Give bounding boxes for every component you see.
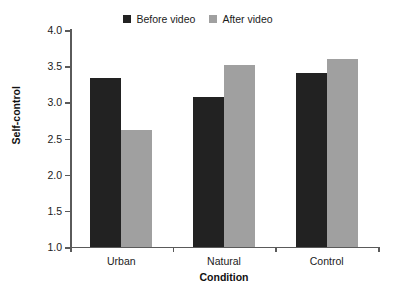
bar	[90, 78, 121, 247]
bar	[296, 73, 327, 247]
x-tick-label: Control	[272, 256, 382, 267]
y-tick-label: 1.0	[0, 242, 62, 253]
bar	[224, 65, 255, 247]
legend-swatch-icon	[209, 15, 217, 23]
legend-swatch-icon	[123, 15, 131, 23]
y-tick-label: 4.0	[0, 25, 62, 36]
x-axis-title: Condition	[70, 272, 378, 283]
bar	[193, 97, 224, 247]
legend-entry: Before video	[123, 14, 195, 25]
x-tick-mark	[378, 247, 380, 252]
bars-layer	[70, 30, 378, 247]
bar	[327, 59, 358, 247]
chart-legend: Before videoAfter video	[0, 14, 396, 25]
legend-label: Before video	[136, 14, 195, 25]
y-tick-label: 2.0	[0, 170, 62, 181]
y-tick-label: 1.5	[0, 206, 62, 217]
y-axis-title: Self-control	[11, 70, 22, 160]
y-tick-label: 3.5	[0, 61, 62, 72]
x-tick-label: Natural	[169, 256, 279, 267]
x-tick-mark	[173, 247, 175, 252]
bar	[121, 130, 152, 247]
bar-chart: Before videoAfter video 1.01.52.02.53.03…	[0, 0, 396, 295]
legend-label: After video	[222, 14, 272, 25]
legend-entry: After video	[209, 14, 272, 25]
x-tick-mark	[275, 247, 277, 252]
x-tick-mark	[70, 247, 72, 252]
x-tick-label: Urban	[66, 256, 176, 267]
